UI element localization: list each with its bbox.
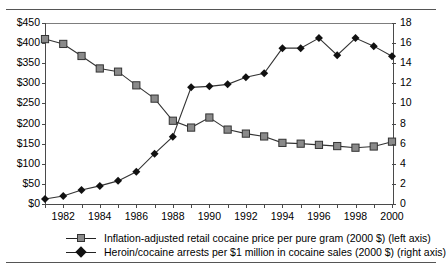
left-axis-tick bbox=[42, 184, 46, 185]
left-axis-tick-label: $400 bbox=[0, 37, 40, 48]
right-axis-tick-label: 18 bbox=[400, 17, 430, 28]
x-axis-tick bbox=[118, 204, 119, 208]
right-axis-tick-label: 6 bbox=[400, 138, 430, 149]
left-axis-tick-label: $0 bbox=[0, 198, 40, 209]
legend-item-arrests: Heroin/cocaine arrests per $1 million in… bbox=[66, 245, 386, 259]
data-point-diamond bbox=[260, 69, 268, 77]
data-point-square bbox=[41, 35, 48, 42]
right-axis-tick-label: 16 bbox=[400, 37, 430, 48]
x-axis-tick bbox=[63, 204, 64, 208]
data-point-square bbox=[224, 126, 231, 133]
x-axis-tick-label: 2000 bbox=[372, 211, 412, 222]
right-axis-tick-label: 2 bbox=[400, 178, 430, 189]
data-point-square bbox=[334, 142, 341, 149]
data-point-square bbox=[279, 139, 286, 146]
right-axis-tick-label: 0 bbox=[400, 198, 430, 209]
x-axis-tick-label: 1982 bbox=[43, 211, 83, 222]
data-point-square bbox=[96, 65, 103, 72]
data-point-square bbox=[370, 143, 377, 150]
left-axis-tick bbox=[42, 164, 46, 165]
x-axis-tick bbox=[356, 204, 357, 208]
top-divider bbox=[6, 9, 436, 10]
left-axis-tick bbox=[42, 43, 46, 44]
x-axis-tick bbox=[209, 204, 210, 208]
data-point-square bbox=[60, 40, 67, 47]
left-axis-tick bbox=[42, 124, 46, 125]
x-axis-tick bbox=[136, 204, 137, 208]
series-svg bbox=[0, 14, 443, 214]
x-axis-tick-label: 1990 bbox=[189, 211, 229, 222]
right-axis-tick-label: 4 bbox=[400, 158, 430, 169]
chart-legend: Inflation-adjusted retail cocaine price … bbox=[66, 231, 386, 259]
x-axis-tick-label: 1986 bbox=[116, 211, 156, 222]
legend-item-cocaine-price: Inflation-adjusted retail cocaine price … bbox=[66, 231, 386, 245]
right-axis-tick bbox=[392, 83, 396, 84]
x-axis-tick bbox=[82, 204, 83, 208]
data-point-square bbox=[352, 144, 359, 151]
data-point-diamond bbox=[224, 80, 232, 88]
x-axis-tick bbox=[45, 204, 46, 208]
left-axis-tick-label: $100 bbox=[0, 158, 40, 169]
data-point-square bbox=[242, 130, 249, 137]
x-axis-tick bbox=[228, 204, 229, 208]
data-point-diamond bbox=[96, 182, 104, 190]
data-point-square bbox=[169, 117, 176, 124]
right-axis-tick-label: 14 bbox=[400, 57, 430, 68]
data-point-diamond bbox=[78, 186, 86, 194]
x-axis-tick bbox=[173, 204, 174, 208]
left-axis-tick-label: $350 bbox=[0, 57, 40, 68]
chart-plot-area: $0$50$100$150$200$250$300$350$400$450 02… bbox=[0, 14, 443, 214]
legend-label-arrests: Heroin/cocaine arrests per $1 million in… bbox=[96, 246, 446, 258]
right-axis-tick bbox=[392, 184, 396, 185]
x-axis-tick bbox=[319, 204, 320, 208]
x-axis-tick bbox=[264, 204, 265, 208]
data-point-diamond bbox=[297, 44, 305, 52]
data-point-diamond bbox=[205, 82, 213, 90]
left-axis-tick-label: $300 bbox=[0, 77, 40, 88]
data-point-square bbox=[78, 52, 85, 59]
data-point-square bbox=[114, 68, 121, 75]
legend-label-cocaine-price: Inflation-adjusted retail cocaine price … bbox=[96, 232, 431, 244]
x-axis-tick bbox=[155, 204, 156, 208]
x-axis-tick-label: 1994 bbox=[262, 211, 302, 222]
right-axis-tick-label: 8 bbox=[400, 118, 430, 129]
right-axis-tick-label: 12 bbox=[400, 77, 430, 88]
x-axis-tick bbox=[191, 204, 192, 208]
left-axis-tick-label: $200 bbox=[0, 118, 40, 129]
right-axis-tick bbox=[392, 164, 396, 165]
x-axis-tick bbox=[246, 204, 247, 208]
x-axis-tick bbox=[337, 204, 338, 208]
data-point-square bbox=[261, 133, 268, 140]
x-axis-tick-label: 1984 bbox=[80, 211, 120, 222]
data-point-square bbox=[315, 141, 322, 148]
x-axis-tick bbox=[392, 204, 393, 208]
right-axis-tick bbox=[392, 124, 396, 125]
data-point-square bbox=[297, 140, 304, 147]
data-point-diamond bbox=[242, 73, 250, 81]
x-axis-tick bbox=[374, 204, 375, 208]
data-point-diamond bbox=[278, 44, 286, 52]
x-axis-tick-label: 1988 bbox=[153, 211, 193, 222]
right-axis-tick bbox=[392, 23, 396, 24]
left-axis-tick-label: $150 bbox=[0, 138, 40, 149]
data-point-diamond bbox=[114, 177, 122, 185]
diamond-marker-icon bbox=[66, 246, 96, 258]
data-point-diamond bbox=[59, 192, 67, 200]
data-point-diamond bbox=[187, 83, 195, 91]
data-point-square bbox=[206, 114, 213, 121]
data-point-diamond bbox=[41, 195, 49, 203]
data-point-square bbox=[188, 124, 195, 131]
left-axis-tick bbox=[42, 144, 46, 145]
x-axis-tick bbox=[100, 204, 101, 208]
x-axis-tick bbox=[282, 204, 283, 208]
right-axis-tick bbox=[392, 144, 396, 145]
data-point-square bbox=[133, 82, 140, 89]
left-axis-tick bbox=[42, 103, 46, 104]
x-axis-tick-label: 1996 bbox=[299, 211, 339, 222]
left-axis-tick bbox=[42, 83, 46, 84]
left-axis-tick-label: $50 bbox=[0, 178, 40, 189]
data-point-diamond bbox=[388, 52, 396, 60]
right-axis-tick bbox=[392, 63, 396, 64]
left-axis-tick-label: $250 bbox=[0, 97, 40, 108]
